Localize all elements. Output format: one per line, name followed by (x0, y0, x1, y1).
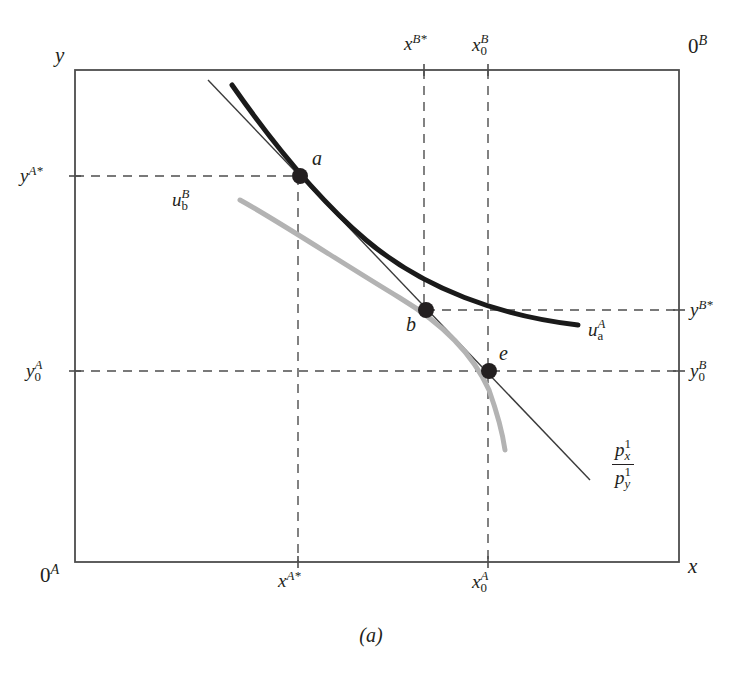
point-label-a: a (312, 148, 322, 168)
origin-a-label: 0A (40, 562, 59, 586)
price-ratio-denominator: p1y (612, 465, 634, 491)
indifference-curve-a (232, 85, 578, 325)
figure-canvas (0, 0, 742, 685)
tick-label-x-b-star: xB* (404, 33, 427, 53)
curve-label-u-a: uAa (588, 318, 605, 343)
tick-label-y-a-zero: yA0 (26, 359, 42, 384)
indifference-curve-b (240, 200, 505, 450)
tick-label-y-a-star: yA* (20, 165, 43, 185)
x-axis-label: x (688, 556, 697, 577)
point-label-e: e (499, 343, 508, 363)
dashed-guides (75, 70, 679, 562)
point-label-b: b (406, 314, 416, 334)
budget-line (208, 80, 590, 480)
price-ratio-numerator: p1x (612, 438, 634, 465)
tick-label-x-a-star: xA* (278, 570, 301, 590)
origin-b-label: 0B (688, 33, 707, 57)
tick-label-y-b-star: yB* (690, 299, 713, 319)
axis-ticks (69, 64, 685, 568)
y-axis-label: y (55, 45, 64, 66)
curve-label-u-b: uBb (172, 188, 189, 213)
price-ratio-label: p1x p1y (612, 438, 634, 490)
tick-label-x-b-zero: xB0 (472, 33, 488, 58)
edgeworth-box-figure: y x 0A 0B yA* yA0 yB* yB0 xB* xB0 xA* xA… (0, 0, 742, 685)
point-e-marker (481, 363, 497, 379)
figure-caption: (a) (0, 624, 742, 647)
point-b-marker (418, 302, 434, 318)
tick-label-y-b-zero: yB0 (690, 359, 706, 384)
point-a-marker (292, 168, 308, 184)
tick-label-x-a-zero: xA0 (472, 570, 488, 595)
box-frame (75, 70, 679, 562)
